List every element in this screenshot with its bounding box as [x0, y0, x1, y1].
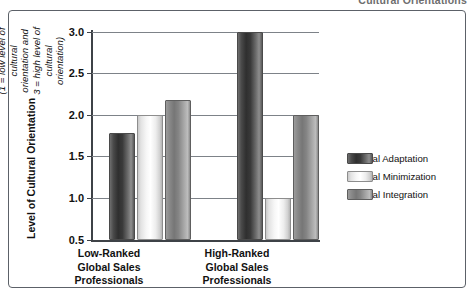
page-running-header-text: Cultural Orientations	[358, 0, 467, 6]
legend-item-cultural-adaptation: Cultural Adaptation	[347, 150, 469, 166]
y-tick-label-2.5: 2.5	[58, 68, 84, 79]
legend-item-cultural-minimization: Cultural Minimization	[347, 168, 469, 184]
legend-swatch-cultural-minimization	[347, 171, 373, 182]
bar-low-ranked-cultural-adaptation	[109, 133, 135, 240]
y-tick-label-1.5: 1.5	[58, 151, 84, 162]
y-axis-title: Level of Cultural Orientation (1 = low l…	[3, 25, 59, 239]
chart-legend: Cultural Adaptation Cultural Minimizatio…	[347, 150, 469, 204]
bar-high-ranked-cultural-minimization	[265, 198, 291, 240]
legend-item-cultural-integration: Cultural Integration	[347, 186, 469, 202]
bar-high-ranked-cultural-adaptation	[237, 32, 263, 240]
y-tick-label-3.0: 3.0	[58, 27, 84, 38]
figure-frame: Level of Cultural Orientation (1 = low l…	[8, 10, 466, 288]
page-running-header: Cultural Orientations	[0, 0, 475, 7]
y-tick-label-0.5: 0.5	[58, 235, 84, 246]
bar-high-ranked-cultural-integration	[293, 115, 319, 240]
legend-swatch-cultural-adaptation	[347, 153, 373, 164]
gridline-3.0	[92, 32, 319, 33]
x-axis-label-low-ranked: Low-Ranked Global Sales Professionals	[44, 247, 174, 288]
x-axis-label-high-ranked: High-Ranked Global Sales Professionals	[172, 247, 302, 288]
y-axis-tick-labels: 3.0 2.5 2.0 1.5 1.0 0.5	[54, 11, 84, 261]
gridline-2.0	[92, 115, 319, 116]
y-tick-label-1.0: 1.0	[58, 193, 84, 204]
plot-area	[92, 32, 319, 240]
y-axis-title-main: Level of Cultural Orientation	[25, 98, 37, 239]
gridline-2.5	[92, 73, 319, 74]
bar-low-ranked-cultural-integration	[165, 100, 191, 240]
bar-low-ranked-cultural-minimization	[137, 115, 163, 240]
x-axis-line	[91, 240, 320, 242]
legend-swatch-cultural-integration	[347, 189, 373, 200]
y-tick-label-2.0: 2.0	[58, 110, 84, 121]
